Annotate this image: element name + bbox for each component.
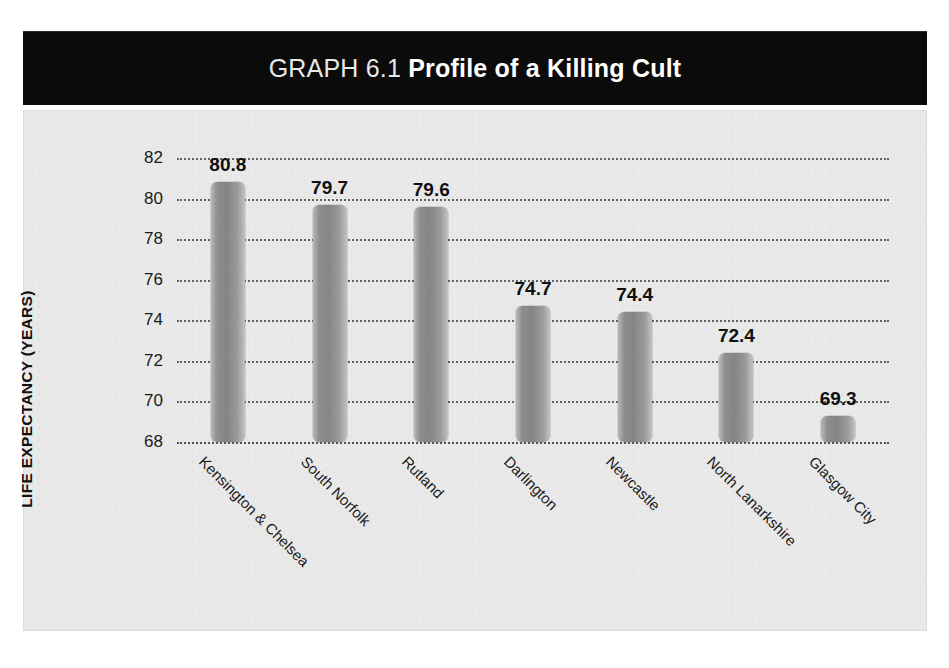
figure: GRAPH 6.1 Profile of a Killing Cult LIFE… — [0, 0, 949, 668]
y-axis-tick-label: 78 — [144, 229, 163, 249]
gridline — [177, 199, 889, 201]
y-axis-tick-label: 68 — [144, 432, 163, 452]
x-axis-category-label: South Norfolk — [297, 453, 373, 529]
bar-value-label: 80.8 — [209, 154, 246, 176]
bar[interactable]: 69.3 — [821, 416, 855, 442]
page-title: GRAPH 6.1 Profile of a Killing Cult — [269, 54, 682, 83]
bar[interactable]: 80.8 — [211, 182, 245, 442]
bar[interactable]: 79.6 — [414, 207, 448, 442]
x-axis-category-label: Glasgow City — [806, 453, 881, 528]
bar[interactable]: 74.7 — [516, 306, 550, 442]
bar[interactable]: 74.4 — [618, 312, 652, 442]
bar[interactable]: 79.7 — [313, 205, 347, 442]
y-axis-tick-label: 74 — [144, 310, 163, 330]
bar-value-label: 69.3 — [820, 388, 857, 410]
y-axis-tick-label: 80 — [144, 188, 163, 208]
title-main: Profile of a Killing Cult — [408, 54, 681, 82]
y-axis-title: LIFE EXPECTANCY (YEARS) — [18, 249, 36, 549]
bar-value-label: 74.4 — [616, 284, 653, 306]
gridline — [177, 158, 889, 160]
bar-value-label: 79.7 — [311, 177, 348, 199]
x-axis-category-label: Rutland — [399, 453, 448, 502]
bar-value-label: 74.7 — [515, 278, 552, 300]
plot-area: 8280787674727068 80.8Kensington & Chelse… — [177, 158, 889, 442]
chart-panel: LIFE EXPECTANCY (YEARS) 8280787674727068… — [23, 110, 927, 631]
gridline — [177, 442, 889, 444]
x-axis-category-label: Newcastle — [603, 453, 664, 514]
x-axis-category-label: Darlington — [501, 453, 561, 513]
x-axis-category-label: North Lanarkshire — [704, 453, 800, 549]
bar[interactable]: 72.4 — [719, 353, 753, 442]
bar-value-label: 79.6 — [413, 179, 450, 201]
y-axis-tick-label: 70 — [144, 391, 163, 411]
y-axis-tick-label: 82 — [144, 148, 163, 168]
y-axis-tick-label: 76 — [144, 269, 163, 289]
x-axis-category-label: Kensington & Chelsea — [196, 453, 313, 570]
bar-value-label: 72.4 — [718, 325, 755, 347]
title-prefix: GRAPH 6.1 — [269, 54, 401, 82]
y-axis-tick-label: 72 — [144, 350, 163, 370]
gridline — [177, 239, 889, 241]
title-banner: GRAPH 6.1 Profile of a Killing Cult — [23, 31, 927, 105]
